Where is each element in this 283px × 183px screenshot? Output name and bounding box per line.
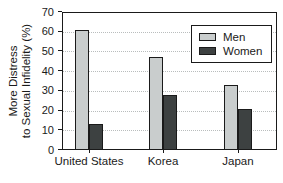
y-tick-label-50: 50 (28, 46, 54, 57)
y-tick-mark-70 (58, 11, 62, 12)
x-category-label-korea: Korea (148, 155, 179, 168)
bar-men-japan (224, 85, 238, 150)
x-tick-mark-japan (238, 150, 239, 153)
y-tick-mark-10 (58, 129, 62, 130)
y-axis-label-line-2: to Sexual Infidelity (%) (20, 24, 33, 138)
bar-men-korea (149, 57, 163, 150)
y-tick-mark-60 (58, 31, 62, 32)
y-tick-label-70: 70 (28, 7, 54, 18)
x-category-label-united-states: United States (54, 155, 123, 168)
y-tick-mark-20 (58, 110, 62, 111)
y-tick-mark-50 (58, 50, 62, 51)
y-tick-mark-40 (58, 70, 62, 71)
bar-women-united-states (89, 124, 103, 150)
y-tick-label-0: 0 (28, 145, 54, 156)
y-tick-label-20: 20 (28, 105, 54, 116)
y-tick-mark-0 (58, 149, 62, 150)
x-tick-mark-korea (163, 150, 164, 153)
legend-item-women: Women (199, 44, 262, 58)
legend: MenWomen (191, 25, 272, 63)
y-tick-mark-30 (58, 90, 62, 91)
x-category-label-japan: Japan (222, 155, 253, 168)
bar-men-united-states (75, 30, 89, 150)
gridline-30 (63, 91, 276, 92)
legend-label-men: Men (223, 30, 245, 44)
legend-item-men: Men (199, 30, 262, 44)
bar-chart-figure: More Distress to Sexual Infidelity (%) 0… (0, 0, 283, 183)
bar-women-japan (238, 109, 252, 150)
x-tick-mark-united-states (89, 150, 90, 153)
legend-swatch-men-icon (199, 33, 216, 41)
y-tick-label-10: 10 (28, 125, 54, 136)
y-tick-label-60: 60 (28, 26, 54, 37)
gridline-40 (63, 71, 276, 72)
y-tick-label-40: 40 (28, 66, 54, 77)
legend-swatch-women-icon (199, 47, 216, 55)
y-axis-label: More Distress to Sexual Infidelity (%) (7, 24, 33, 138)
y-axis-label-line-1: More Distress (7, 24, 20, 138)
bar-women-korea (163, 95, 177, 150)
legend-label-women: Women (223, 44, 262, 58)
y-tick-label-30: 30 (28, 85, 54, 96)
